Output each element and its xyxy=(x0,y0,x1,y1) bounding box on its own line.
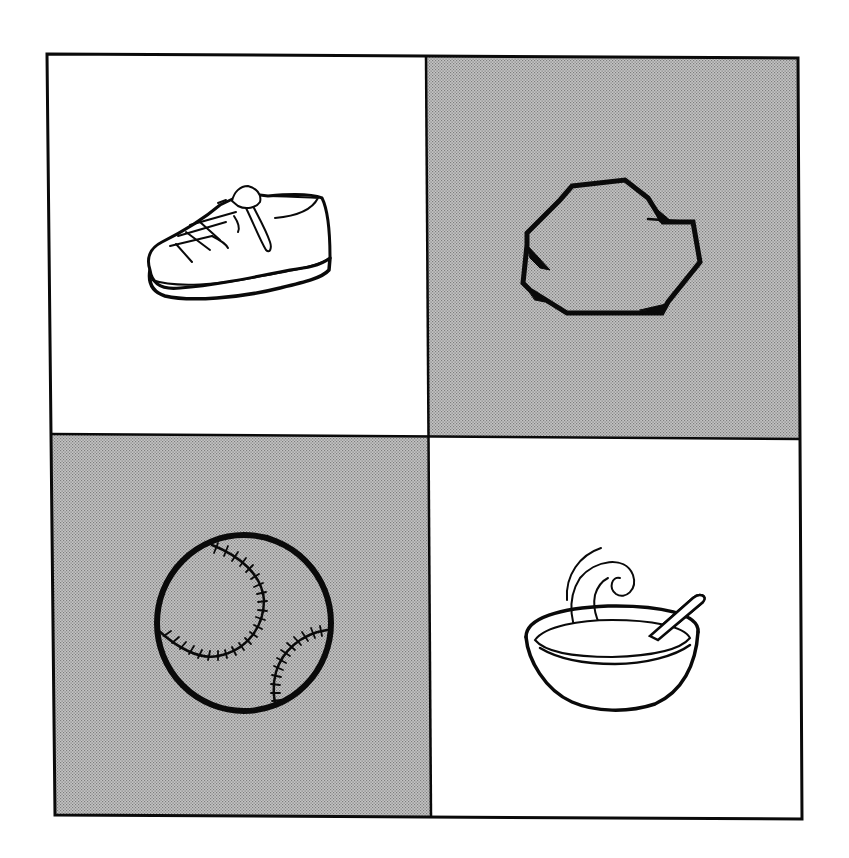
cell-bottom-left-shade xyxy=(51,434,431,817)
cell-top-right-shade xyxy=(426,56,800,439)
picture-grid-worksheet: shoe rock baseball soup-bowl xyxy=(0,0,849,858)
